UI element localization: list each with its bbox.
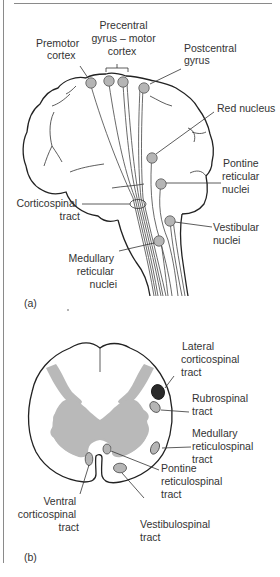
- label-postcentral-gyrus: Postcentral gyrus: [184, 42, 239, 66]
- medullary-reticular-nucleus: [154, 236, 164, 246]
- label-premotor-cortex: Premotor cortex: [36, 37, 82, 61]
- postcentral-leader: [150, 69, 181, 84]
- precentral-bracket: [106, 64, 128, 72]
- panel-a-label: (a): [24, 297, 37, 309]
- vestibulospinal-leader: [122, 473, 144, 498]
- pontine-reticulospinal-tract: [103, 444, 111, 454]
- ventral-cst-leader: [80, 465, 89, 494]
- cortex-sulcus: [66, 86, 76, 94]
- stray-dot: [67, 309, 69, 311]
- fiber: [142, 88, 167, 296]
- lateral-corticospinal-tract: [150, 383, 166, 401]
- label-precentral-gyrus: Precentral gyrus – motor cortex: [91, 19, 158, 57]
- cortex-sulcus: [44, 112, 54, 166]
- label-vestibular-nuclei: Vestibular nuclei: [213, 221, 262, 246]
- cortex-sulcus: [150, 96, 172, 106]
- medullary-reticulospinal-tract: [149, 440, 162, 455]
- vestibular-nucleus: [165, 216, 175, 226]
- cortex-sulcus: [52, 146, 62, 162]
- label-pontine-reticulospinal-tract: Pontine reticulospinal tract: [161, 462, 225, 500]
- lateral-cst-leader: [165, 376, 174, 388]
- pontine-reticular-nucleus: [156, 179, 166, 189]
- precentral-nucleus-1: [104, 76, 114, 86]
- label-rubrospinal-tract: Rubrospinal tract: [192, 392, 251, 417]
- label-corticospinal-tract: Corticospinal tract: [16, 197, 80, 222]
- panel-b-label: (b): [24, 551, 37, 563]
- rubrospinal-tract: [148, 400, 163, 415]
- premotor-cortex-nucleus: [86, 78, 96, 88]
- label-medullary-reticulospinal-tract: Medullary reticulospinal tract: [192, 427, 256, 465]
- postcentral-nucleus: [139, 83, 149, 93]
- red-nucleus-leader: [156, 112, 214, 154]
- motor-pathways-diagram: Premotor cortex Precentral gyrus – motor…: [0, 0, 280, 577]
- label-red-nucleus: Red nucleus: [217, 102, 275, 114]
- premotor-leader: [80, 66, 88, 78]
- label-lateral-corticospinal-tract: Lateral corticospinal tract: [181, 340, 242, 378]
- vestibulospinal-tract: [114, 463, 127, 473]
- label-medullary-reticular-nuclei: Medullary reticular nuclei: [69, 252, 117, 290]
- brainstem-right-outline: [181, 214, 189, 296]
- brainstem-left-outline: [118, 220, 150, 296]
- ventral-corticospinal-tract: [85, 453, 93, 466]
- cortex-sulcus: [70, 164, 104, 172]
- panel-a: Premotor cortex Precentral gyrus – motor…: [16, 19, 275, 311]
- panel-b: Lateral corticospinal tract Rubrospinal …: [18, 340, 257, 563]
- cerebellum-outline: [182, 176, 207, 214]
- red-nucleus: [147, 153, 157, 163]
- cortex-sulcus: [52, 94, 70, 106]
- precentral-nucleus-2: [118, 77, 128, 87]
- label-vestibulospinal-tract: Vestibulospinal tract: [140, 518, 213, 543]
- label-pontine-reticular-nuclei: Pontine reticular nuclei: [222, 157, 262, 195]
- cerebellum-fold: [190, 171, 206, 176]
- label-ventral-corticospinal-tract: Ventral corticospinal tract: [18, 495, 79, 533]
- rubrospinal-leader: [161, 410, 189, 412]
- grey-matter-center: [52, 400, 147, 456]
